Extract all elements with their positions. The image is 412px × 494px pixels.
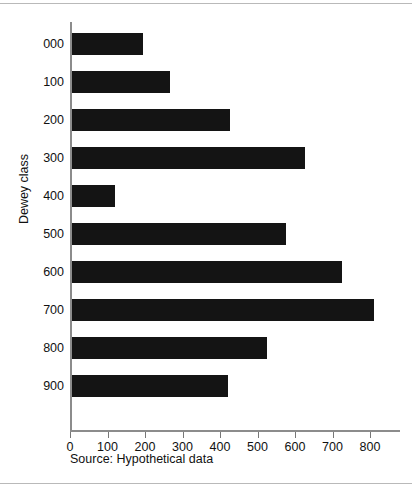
- y-tick-label-100: 100: [43, 75, 64, 89]
- bar-200: [72, 109, 230, 131]
- x-tick-400: [220, 432, 221, 438]
- bar-600: [72, 261, 342, 283]
- x-tick-label-500: 500: [247, 440, 268, 454]
- y-tick-label-200: 200: [43, 113, 64, 127]
- x-tick-700: [333, 432, 334, 438]
- bar-500: [72, 223, 286, 245]
- x-axis-line: [70, 430, 400, 432]
- y-tick-label-800: 800: [43, 341, 64, 355]
- figure-bottom-border: [0, 483, 412, 484]
- y-tick-label-700: 700: [43, 303, 64, 317]
- x-tick-label-600: 600: [285, 440, 306, 454]
- figure-top-border: [0, 3, 412, 4]
- x-tick-800: [370, 432, 371, 438]
- x-tick-100: [108, 432, 109, 438]
- y-tick-label-500: 500: [43, 227, 64, 241]
- bar-700: [72, 299, 374, 321]
- bar-100: [72, 71, 170, 93]
- y-tick-label-000: 000: [43, 37, 64, 51]
- x-tick-label-800: 800: [360, 440, 381, 454]
- x-tick-200: [145, 432, 146, 438]
- y-tick-label-400: 400: [43, 189, 64, 203]
- bar-900: [72, 375, 228, 397]
- y-tick-label-900: 900: [43, 379, 64, 393]
- bar-400: [72, 185, 115, 207]
- x-tick-600: [295, 432, 296, 438]
- bar-000: [72, 33, 143, 55]
- x-tick-label-700: 700: [322, 440, 343, 454]
- y-tick-label-300: 300: [43, 151, 64, 165]
- source-note: Source: Hypothetical data: [70, 452, 213, 467]
- y-tick-label-600: 600: [43, 265, 64, 279]
- x-tick-500: [258, 432, 259, 438]
- bar-300: [72, 147, 305, 169]
- bar-chart-figure: Dewey class 0001002003004005006007008009…: [0, 0, 412, 494]
- x-tick-0: [70, 432, 71, 438]
- x-tick-300: [183, 432, 184, 438]
- plot-area: 0100200300400500600700800: [70, 22, 400, 432]
- y-axis-tick-labels: 000100200300400500600700800900: [0, 22, 64, 432]
- bar-800: [72, 337, 267, 359]
